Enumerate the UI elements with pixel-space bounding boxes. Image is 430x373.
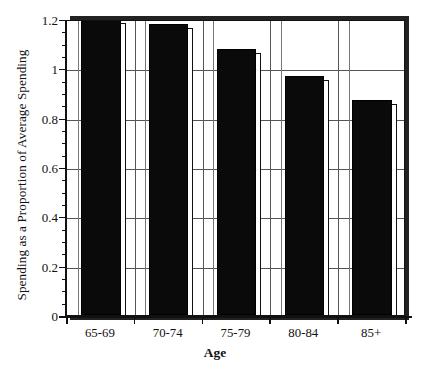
y-axis-tick-label: 0.6: [18, 162, 58, 175]
y-axis-tick-labels: 00.20.40.60.811.2: [14, 0, 58, 373]
x-axis-tick-label: 75-79: [221, 326, 251, 341]
y-axis-tick-major: [59, 119, 66, 120]
y-axis-tick-label: 0.4: [18, 211, 58, 224]
x-axis-tick: [405, 316, 407, 324]
y-axis-line: [59, 20, 66, 316]
y-axis-tick-major: [59, 267, 66, 268]
x-axis-tick: [66, 316, 68, 324]
bar-65-69[interactable]: [81, 20, 120, 315]
vertical-gridline: [135, 21, 136, 315]
bar-75-79[interactable]: [217, 43, 256, 315]
vertical-gridline-minor: [281, 21, 282, 315]
vertical-gridline-minor: [145, 21, 146, 315]
x-axis-tick: [202, 316, 204, 324]
bar-front-face: [81, 20, 120, 315]
bar-chart-figure: Spending as a Proportion of Average Spen…: [0, 0, 430, 373]
x-axis-tick-label: 85+: [361, 326, 381, 341]
bar-85+[interactable]: [352, 94, 391, 315]
y-axis-tick-label: 0.2: [18, 260, 58, 273]
x-axis-line: [59, 316, 412, 318]
x-axis-tick-label: 65-69: [85, 326, 115, 341]
vertical-gridline: [203, 21, 204, 315]
vertical-gridline-minor: [213, 21, 214, 315]
vertical-gridline-minor: [78, 21, 79, 315]
bar-front-face: [149, 24, 188, 315]
y-axis-tick-major: [59, 69, 66, 70]
y-axis-tick-major: [59, 217, 66, 218]
bar-front-face: [285, 76, 324, 315]
vertical-gridline-minor: [349, 21, 350, 315]
vertical-gridline: [270, 21, 271, 315]
bar-front-face: [352, 100, 391, 315]
bar-front-face: [217, 49, 256, 315]
bar-70-74[interactable]: [149, 20, 188, 315]
x-axis-tick: [269, 316, 271, 324]
x-axis-tick-label: 80-84: [288, 326, 318, 341]
x-axis-tick: [134, 316, 136, 324]
y-axis-tick-label: 0.8: [18, 112, 58, 125]
x-axis-title: Age: [0, 345, 430, 361]
y-axis-tick-major: [59, 168, 66, 169]
bar-80-84[interactable]: [285, 70, 324, 315]
vertical-gridline: [338, 21, 339, 315]
y-axis-tick-label: 1: [18, 63, 58, 76]
y-axis-tick-major: [59, 20, 66, 21]
plot-area: [66, 20, 405, 316]
x-axis-tick: [337, 316, 339, 324]
y-axis-tick-label: 0: [18, 310, 58, 323]
y-axis-tick-label: 1.2: [18, 14, 58, 27]
x-axis-tick-label: 70-74: [153, 326, 183, 341]
